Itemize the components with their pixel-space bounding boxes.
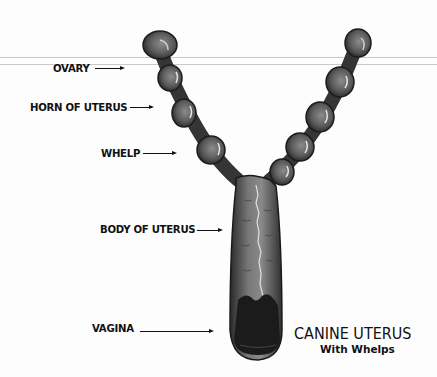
label-whelp: WHELP	[101, 147, 140, 160]
canine-uterus-diagram: OVARY HORN OF UTERUS WHELP BODY OF UTERU…	[0, 0, 437, 377]
right-ovary	[345, 29, 371, 57]
arrow-right-icon	[95, 68, 123, 69]
left-ovary	[143, 31, 177, 59]
diagram-subtitle: With Whelps	[320, 343, 395, 355]
label-body-of-uterus: BODY OF UTERUS	[100, 223, 195, 236]
label-ovary: OVARY	[53, 62, 89, 75]
uterus-illustration	[0, 0, 437, 377]
arrow-right-icon	[143, 153, 175, 154]
diagram-title: CANINE UTERUS	[294, 324, 411, 343]
label-vagina: VAGINA	[92, 322, 134, 335]
arrow-right-icon	[140, 331, 212, 332]
label-horn-of-uterus: HORN OF UTERUS	[30, 101, 127, 114]
arrow-right-icon	[197, 230, 221, 231]
arrow-right-icon	[130, 107, 152, 108]
